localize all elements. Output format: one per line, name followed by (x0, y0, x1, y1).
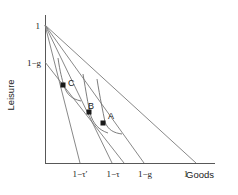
x-tick-label-1-minus-g: 1−g (138, 169, 153, 179)
point-marker-A (101, 121, 106, 126)
point-label-A: A (108, 111, 114, 121)
economics-budget-indifference-figure: C B A 1−τ′ 1−τ 1−g 1 1 1−g Goods Leisure (0, 0, 238, 195)
axes-group (45, 15, 215, 163)
budget-line-1-minus-g (45, 25, 144, 163)
y-axis-tick-labels: 1 1−g (27, 21, 42, 68)
budget-line-1-tau-prime (45, 25, 80, 163)
plot-area: C B A 1−τ′ 1−τ 1−g 1 1 1−g Goods Leisure (0, 0, 238, 195)
x-tick-label-1-tau-prime: 1−τ′ (72, 169, 87, 179)
point-marker-C (61, 83, 66, 88)
point-label-C: C (68, 78, 75, 88)
indifference-curve-A (97, 79, 122, 134)
x-tick-label-1-tau: 1−τ (106, 169, 120, 179)
point-label-B: B (88, 101, 94, 111)
y-axis-title: Leisure (5, 79, 16, 110)
budget-line-1-tau (45, 25, 112, 163)
y-tick-label-1-minus-g: 1−g (27, 58, 42, 68)
y-tick-label-1: 1 (36, 21, 41, 31)
indifference-curves-group (58, 58, 122, 134)
x-axis-title: Goods (186, 169, 214, 180)
x-axis-tick-labels: 1−τ′ 1−τ 1−g 1 (72, 169, 188, 179)
